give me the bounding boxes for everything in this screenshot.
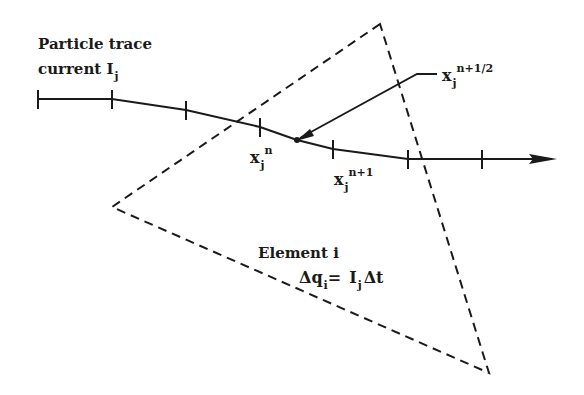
trace-title-line2: current Ij [38, 62, 118, 77]
delta-t: Δt [364, 268, 384, 287]
point-sup: n+1/2 [457, 62, 494, 75]
point-sup: n [265, 144, 273, 157]
element-label: Element i [258, 246, 339, 261]
delta-q-sub: i [324, 279, 328, 292]
equals-sign: = [328, 268, 341, 287]
point-sup: n+1 [349, 166, 374, 179]
current-I-sub: j [358, 279, 362, 292]
point-label-n-plus-half: xjn+1/2 [442, 68, 493, 84]
current-subscript: j [114, 70, 118, 83]
point-base: x [250, 148, 260, 167]
point-base: x [334, 170, 344, 189]
delta-q: Δq [299, 268, 323, 287]
particle-trace-path [38, 99, 545, 159]
point-base: x [442, 66, 452, 85]
point-sub: j [345, 181, 349, 194]
charge-equation: Δqi=IjΔt [299, 270, 383, 286]
midpoint-dot [294, 137, 300, 143]
trace-title-line1: Particle trace [38, 37, 152, 52]
current-label: current I [38, 60, 113, 78]
point-label-n-plus-1: xjn+1 [334, 172, 373, 188]
element-label-text: Element i [258, 244, 339, 262]
title-text: Particle trace [38, 35, 152, 53]
midpoint-leader-line [300, 74, 437, 138]
point-sub: j [453, 77, 457, 90]
point-sub: j [261, 159, 265, 172]
point-label-n: xjn [250, 150, 273, 166]
trace-arrowhead-icon [529, 154, 557, 164]
element-triangle [112, 24, 489, 373]
current-I: I [349, 268, 356, 287]
